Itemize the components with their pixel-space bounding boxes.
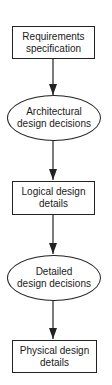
- node-architectural-design-decisions: Architectural design decisions: [7, 95, 101, 141]
- node-label-line: design decisions: [17, 118, 91, 130]
- node-label-line: details: [22, 198, 86, 210]
- node-label-line: Architectural: [17, 106, 91, 118]
- arrow-n2-n3: [49, 141, 57, 180]
- node-label-line: Requirements: [22, 31, 84, 43]
- node-label-line: Physical design: [20, 345, 89, 357]
- node-logical-design-details: Logical design details: [12, 181, 95, 215]
- node-label-line: design decisions: [17, 278, 91, 290]
- node-requirements-specification: Requirements specification: [12, 26, 95, 59]
- node-label-line: Logical design: [22, 186, 86, 198]
- node-label-line: details: [20, 357, 89, 369]
- node-physical-design-details: Physical design details: [12, 340, 97, 373]
- arrow-n4-n5: [49, 301, 57, 339]
- node-label-line: Detailed: [17, 266, 91, 278]
- node-detailed-design-decisions: Detailed design decisions: [7, 255, 101, 301]
- node-label-line: specification: [22, 43, 84, 55]
- arrow-n1-n2: [49, 58, 57, 95]
- arrow-n3-n4: [49, 215, 57, 254]
